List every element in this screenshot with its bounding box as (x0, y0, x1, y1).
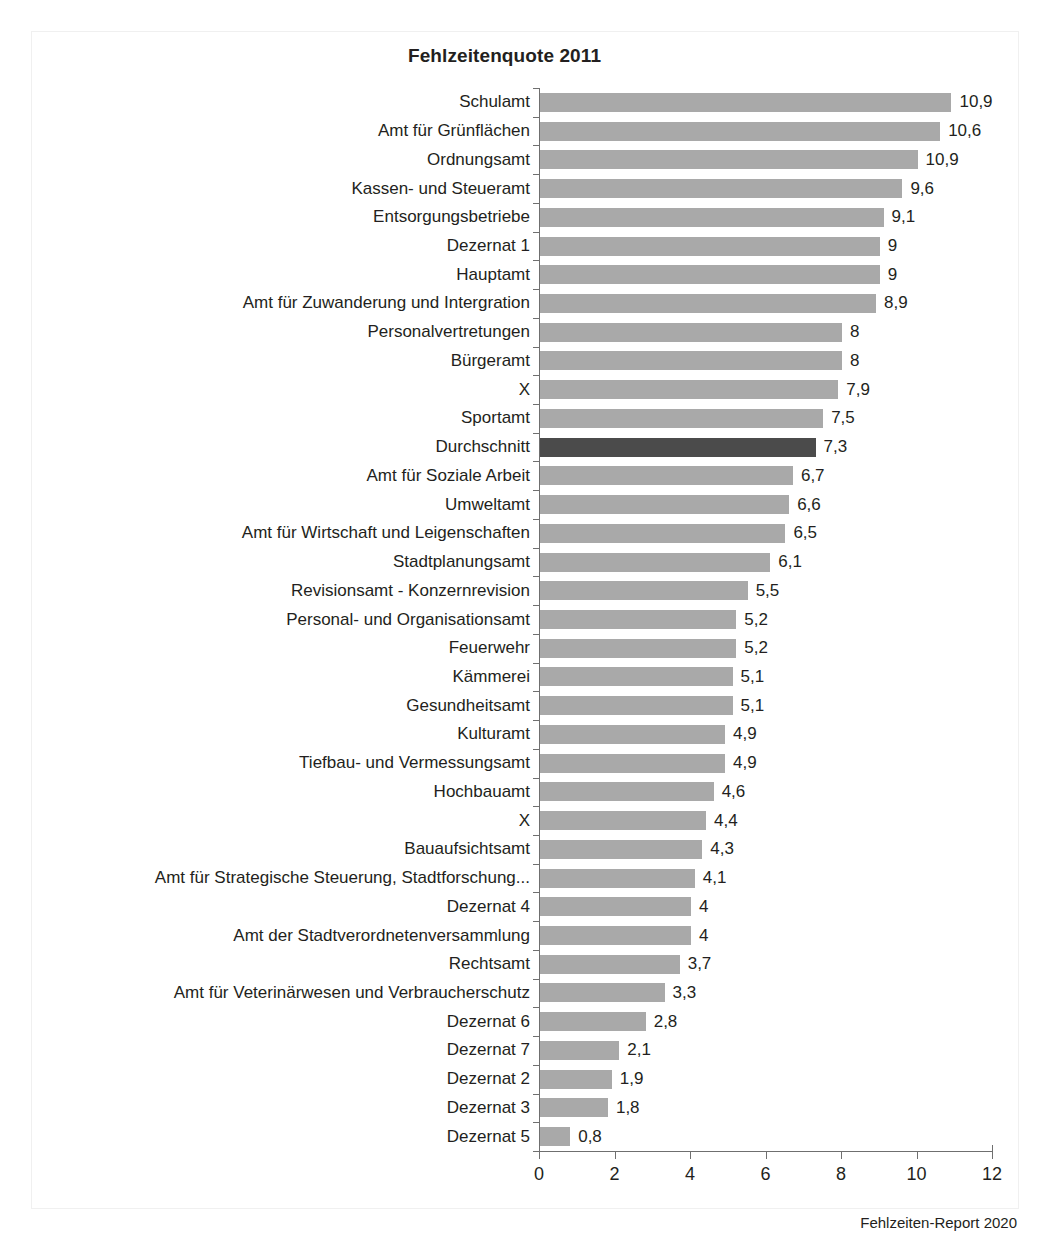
bar (540, 208, 884, 227)
category-label: Dezernat 3 (447, 1099, 530, 1116)
bar-value-label: 4 (699, 926, 708, 946)
bar (540, 955, 680, 974)
y-axis-tick (533, 864, 539, 865)
bar-value-label: 1,8 (616, 1098, 640, 1118)
bar-value-label: 9,6 (910, 179, 934, 199)
x-axis-tick-label: 0 (534, 1164, 544, 1185)
category-label: Dezernat 5 (447, 1128, 530, 1145)
y-axis-tick (533, 461, 539, 462)
y-axis-tick (533, 1007, 539, 1008)
category-label: Amt für Wirtschaft und Leigenschaften (242, 524, 530, 541)
bar-value-label: 8 (850, 322, 859, 342)
category-label: Schulamt (459, 93, 530, 110)
category-label: Kulturamt (457, 725, 530, 742)
category-label: Hochbauamt (434, 783, 530, 800)
bar-value-label: 1,9 (620, 1069, 644, 1089)
bar-value-label: 4,9 (733, 753, 757, 773)
x-axis-tick-label: 2 (609, 1164, 619, 1185)
y-axis-tick (533, 117, 539, 118)
bar (540, 696, 733, 715)
category-label: Entsorgungsbetriebe (373, 208, 530, 225)
category-label: Dezernat 2 (447, 1070, 530, 1087)
bar (540, 294, 876, 313)
y-axis-tick (533, 749, 539, 750)
bar (540, 323, 842, 342)
y-axis-tick (533, 347, 539, 348)
y-axis-tick (533, 835, 539, 836)
category-label: Amt für Soziale Arbeit (367, 467, 530, 484)
category-label: Durchschnitt (436, 438, 530, 455)
category-label: Dezernat 4 (447, 898, 530, 915)
bar-value-label: 3,3 (673, 983, 697, 1003)
x-axis-tick (841, 1152, 842, 1159)
category-label: Kassen- und Steueramt (351, 180, 530, 197)
category-label: Amt für Veterinärwesen und Verbrauchersc… (174, 984, 530, 1001)
bar (540, 553, 770, 572)
category-label: Personalvertretungen (367, 323, 530, 340)
bar-value-label: 4,3 (710, 839, 734, 859)
x-axis-tick (992, 1152, 993, 1159)
bar (540, 495, 789, 514)
y-axis-tick (533, 1065, 539, 1066)
category-label: Kämmerei (453, 668, 530, 685)
y-axis-tick (533, 318, 539, 319)
chart-title-text: Fehlzeitenquote 2011 (408, 45, 601, 67)
y-axis-tick (533, 892, 539, 893)
y-axis-tick (533, 203, 539, 204)
y-axis-tick (533, 691, 539, 692)
bar-value-label: 5,5 (756, 581, 780, 601)
bar (540, 811, 706, 830)
y-axis-tick (533, 1122, 539, 1123)
bar (540, 897, 691, 916)
bar-value-label: 10,6 (948, 121, 981, 141)
bar-value-label: 5,2 (744, 638, 768, 658)
y-axis-tick (533, 519, 539, 520)
category-label: Stadtplanungsamt (393, 553, 530, 570)
bar-value-label: 7,9 (846, 380, 870, 400)
category-label: Feuerwehr (449, 639, 530, 656)
bar (540, 983, 665, 1002)
y-axis-tick (533, 921, 539, 922)
bar (540, 237, 880, 256)
bar-value-label: 4,1 (703, 868, 727, 888)
bar-value-label: 6,5 (793, 523, 817, 543)
x-axis-tick-label: 4 (685, 1164, 695, 1185)
bar-value-label: 5,1 (741, 696, 765, 716)
category-label: Tiefbau- und Vermessungsamt (299, 754, 530, 771)
bar-value-label: 3,7 (688, 954, 712, 974)
bar (540, 581, 748, 600)
bar (540, 869, 695, 888)
bar-value-label: 2,1 (627, 1040, 651, 1060)
bar (540, 1041, 619, 1060)
category-label: Gesundheitsamt (406, 697, 530, 714)
y-axis-tick (533, 88, 539, 89)
bar (540, 122, 940, 141)
y-axis-tick (533, 778, 539, 779)
bar-value-label: 2,8 (654, 1012, 678, 1032)
bar-value-label: 8,9 (884, 293, 908, 313)
y-axis-tick (533, 806, 539, 807)
bar-value-label: 7,3 (824, 437, 848, 457)
category-label: Umweltamt (445, 496, 530, 513)
bar (540, 840, 702, 859)
category-label: Amt für Grünflächen (378, 122, 530, 139)
bar-value-label: 5,2 (744, 610, 768, 630)
category-label: Ordnungsamt (427, 151, 530, 168)
bar-value-label: 4,6 (722, 782, 746, 802)
x-axis-cap-right (992, 1145, 993, 1152)
category-label: Rechtsamt (449, 955, 530, 972)
x-axis-tick (917, 1152, 918, 1159)
x-axis-tick (690, 1152, 691, 1159)
bar (540, 265, 880, 284)
bar (540, 438, 816, 457)
y-axis-tick (533, 663, 539, 664)
bar (540, 926, 691, 945)
y-axis-tick (533, 404, 539, 405)
bar-value-label: 0,8 (578, 1127, 602, 1147)
category-label: Amt für Strategische Steuerung, Stadtfor… (155, 869, 530, 886)
y-axis-tick (533, 979, 539, 980)
bar-value-label: 4 (699, 897, 708, 917)
bar-value-label: 9 (888, 265, 897, 285)
bar-value-label: 5,1 (741, 667, 765, 687)
category-label: Bürgeramt (451, 352, 530, 369)
